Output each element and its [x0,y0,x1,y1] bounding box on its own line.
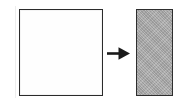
right-arrow-icon [106,44,131,63]
figure-canvas [0,0,186,109]
result-rectangle-label [137,10,138,11]
scan-artifact-line [15,6,16,98]
arrow-label [106,63,107,64]
gray-fill-texture [136,9,173,96]
source-square-shape [19,9,103,96]
source-square-label [20,10,21,11]
figure-caption [0,0,1,1]
result-rectangle-shape [136,9,173,96]
